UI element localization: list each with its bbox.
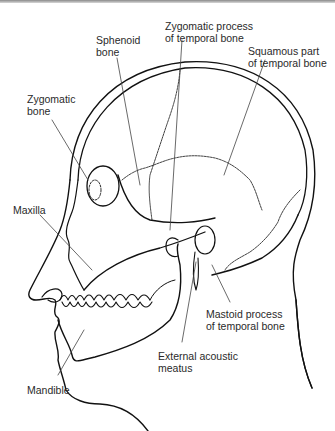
mandible-notch	[150, 280, 175, 300]
occipital-curve	[212, 215, 298, 275]
condyle	[166, 238, 178, 257]
leader-acoustic-meatus	[182, 262, 196, 342]
orbit-inner	[89, 180, 101, 200]
label-zygomatic-bone: Zygomatic bone	[27, 93, 75, 117]
label-external-acoustic-meatus: External acoustic meatus	[158, 350, 238, 374]
neck-back	[296, 300, 312, 388]
nostril	[42, 289, 62, 302]
mastoid	[195, 226, 215, 254]
label-zygomatic-process: Zygomatic process of temporal bone	[165, 20, 253, 44]
leader-maxilla	[40, 215, 92, 270]
label-mastoid-process: Mastoid process of temporal bone	[206, 308, 285, 332]
label-mandible: Mandible	[27, 384, 70, 396]
maxilla-lower	[84, 232, 205, 290]
upper-teeth	[60, 295, 150, 301]
label-squamous-part: Squamous part of temporal bone	[248, 45, 327, 69]
squamous-suture	[122, 156, 262, 210]
label-maxilla: Maxilla	[13, 204, 46, 216]
leader-mandible	[58, 330, 84, 375]
nasal-bone	[66, 180, 84, 290]
zygomatic-arch	[118, 175, 215, 223]
label-sphenoid-bone: Sphenoid bone	[96, 34, 140, 58]
leader-sphenoid	[117, 58, 140, 185]
head-outline	[70, 62, 315, 388]
leader-zygomatic-process	[170, 40, 182, 230]
lower-teeth	[62, 302, 152, 308]
orbit	[87, 166, 119, 206]
